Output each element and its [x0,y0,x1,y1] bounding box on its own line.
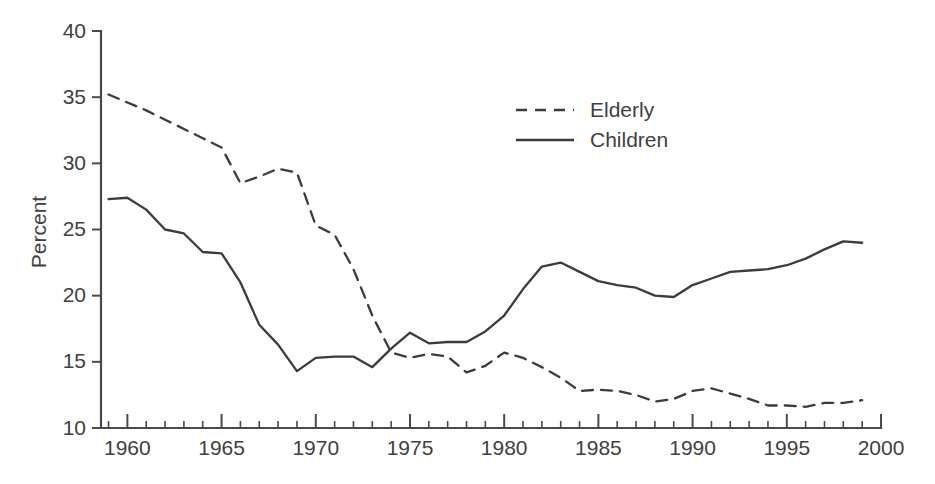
y-tick-label: 35 [63,85,86,108]
series-line-elderly [109,95,863,407]
x-tick-label: 1965 [198,436,245,459]
y-axis-title: Percent [27,196,50,269]
x-tick-label: 2000 [858,436,905,459]
x-tick-label: 1975 [387,436,434,459]
x-tick-label: 1985 [575,436,622,459]
chart-legend: ElderlyChildren [516,98,668,151]
x-tick-label: 1995 [763,436,810,459]
y-tick-label: 40 [63,19,86,42]
poverty-rate-line-chart: 10152025303540 1960196519701975198019851… [0,0,935,484]
x-tick-label: 1990 [669,436,716,459]
x-tick-label: 1980 [481,436,528,459]
legend-label-elderly: Elderly [590,98,655,121]
x-tick-label: 1960 [104,436,151,459]
x-tick-label: 1970 [292,436,339,459]
y-tick-label: 30 [63,151,86,174]
y-tick-label: 15 [63,349,86,372]
y-axis: 10152025303540 [63,19,101,439]
x-axis: 196019651970197519801985199019952000 [101,414,904,459]
y-tick-label: 20 [63,283,86,306]
chart-canvas: 10152025303540 1960196519701975198019851… [0,0,935,484]
y-tick-label: 10 [63,416,86,439]
series-line-children [109,198,863,371]
y-tick-label: 25 [63,217,86,240]
data-series-group [109,95,863,407]
legend-label-children: Children [590,128,668,151]
